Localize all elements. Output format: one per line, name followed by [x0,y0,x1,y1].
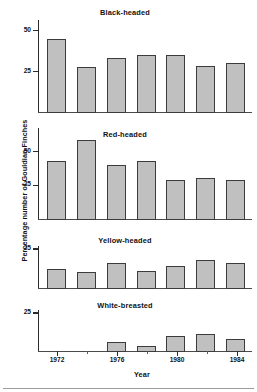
plot-area: 50 25 [30,20,252,113]
y-axis-line [38,128,39,220]
bar [137,161,156,220]
panel-title: Black-headed [30,8,220,17]
x-tick-minor [87,351,88,354]
bar [226,263,245,289]
x-tick-label: 1972 [50,356,65,363]
bar [226,63,245,113]
y-tick-25: 25 [33,71,39,72]
bar-slot [161,20,191,113]
plot-area: 25 [30,246,252,289]
y-tick-label: 50 [24,26,31,33]
bar-slot [161,246,191,289]
bar [47,269,66,289]
bar-slot [191,310,221,352]
bar-slot [72,20,102,113]
bar [226,339,245,352]
y-tick-label: 25 [24,180,31,187]
bar [47,161,66,220]
x-tick-major [117,351,118,356]
bar [196,260,215,289]
bar [196,334,215,352]
plot-area: 50 25 [30,128,252,220]
x-tick-minor [147,351,148,354]
bar-slot [131,310,161,352]
bar [107,165,126,220]
bar-group [42,128,250,220]
bar [166,180,185,220]
bar [166,55,185,113]
bar-slot [42,128,72,220]
footer-divider [3,388,254,389]
y-axis-title: Percentage number of Gouldian Finches [20,91,29,291]
x-tick-group: 1972 1976 1980 1984 [42,351,252,355]
bar-slot [220,128,250,220]
bar [137,55,156,113]
bar-slot [131,246,161,289]
bar-slot [131,128,161,220]
y-tick-25: 25 [33,248,39,249]
y-tick-25: 25 [33,312,39,313]
bar-slot [42,246,72,289]
bar-slot [42,310,72,352]
bar-slot [101,128,131,220]
bar-slot [191,246,221,289]
bar-group [42,20,250,113]
x-tick-label: 1976 [110,356,125,363]
bar [226,180,245,220]
bar-slot [191,20,221,113]
bar-slot [72,128,102,220]
x-tick-major [57,351,58,356]
bar-slot [220,310,250,352]
bar-slot [101,246,131,289]
y-tick-50: 50 [33,151,39,152]
bar [107,263,126,289]
x-tick-label: 1984 [230,356,245,363]
bar [107,58,126,113]
y-tick-50: 50 [33,30,39,31]
bar-slot [72,310,102,352]
panel-title: Yellow-headed [30,236,220,245]
bar-slot [191,128,221,220]
y-tick-label: 25 [24,244,31,251]
x-axis-title: Year [42,370,242,379]
bar-slot [161,310,191,352]
bar [77,140,96,220]
bar-slot [220,246,250,289]
bar-slot [131,20,161,113]
bar-slot [161,128,191,220]
y-tick-25: 25 [33,185,39,186]
bar-slot [220,20,250,113]
x-axis: 1972 1976 1980 1984 [42,351,252,365]
plot-area: 25 [30,310,252,352]
bar [196,178,215,220]
x-tick-major [177,351,178,356]
bar [77,272,96,289]
bar-slot [101,310,131,352]
bar-slot [101,20,131,113]
x-tick-major [237,351,238,356]
bar [47,39,66,113]
bar [77,67,96,113]
bar-group [42,246,250,289]
panel-black-headed: Black-headed 50 25 [30,8,252,113]
bar-group [42,310,250,352]
panel-red-headed: Red-headed 50 25 [30,128,252,220]
panel-title: White-breasted [30,301,220,310]
panel-white-breasted: White-breasted 25 [30,301,252,352]
y-axis-line [38,20,39,113]
y-tick-label: 50 [24,147,31,154]
bar-slot [42,20,72,113]
bar [196,66,215,113]
bar [137,271,156,289]
bar [166,336,185,353]
y-tick-label: 25 [24,308,31,315]
bar [166,266,185,289]
x-tick-minor [207,351,208,354]
y-axis-line [38,310,39,352]
chart-figure: Percentage number of Gouldian Finches Bl… [0,0,257,392]
y-tick-label: 25 [24,67,31,74]
bar-slot [72,246,102,289]
x-tick-label: 1980 [170,356,185,363]
y-axis-line [38,246,39,289]
panel-yellow-headed: Yellow-headed 25 [30,236,252,289]
